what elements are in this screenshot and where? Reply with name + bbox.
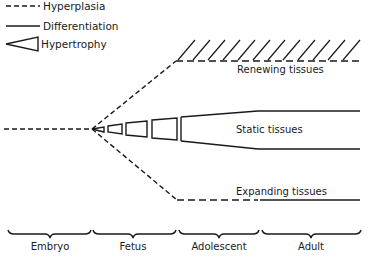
- hypertrophy-wedge-4: [152, 118, 177, 140]
- expanding-tissues-label: Expanding tissues: [236, 187, 327, 197]
- brace-embryo: [8, 230, 91, 238]
- brace-adolescent: [179, 230, 259, 238]
- stage-embryo-label: Embryo: [31, 242, 70, 252]
- static-bottom-line: [181, 141, 360, 149]
- brace-adult: [262, 230, 361, 238]
- static-tissues-label: Static tissues: [236, 125, 303, 135]
- legend-wedge-icon: [6, 37, 38, 51]
- legend-differentiation-label: Differentiation: [43, 21, 118, 32]
- hypertrophy-wedge-3: [126, 121, 147, 137]
- hypertrophy-wedge-2: [108, 124, 122, 134]
- brace-fetus: [93, 230, 176, 238]
- stage-adolescent-label: Adolescent: [191, 242, 246, 252]
- renewing-hatch-marks: [178, 40, 360, 60]
- legend-hyperplasia-label: Hyperplasia: [43, 1, 105, 12]
- static-top-line: [181, 111, 360, 117]
- renewing-tissues-label: Renewing tissues: [237, 65, 324, 75]
- stage-adult-label: Adult: [298, 242, 324, 252]
- stage-fetus-label: Fetus: [120, 242, 147, 252]
- legend-hypertrophy-label: Hypertrophy: [41, 39, 107, 50]
